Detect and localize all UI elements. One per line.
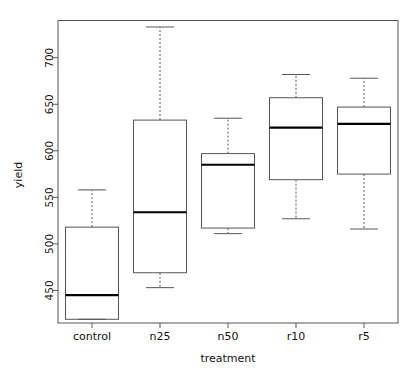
- y-axis-title: yield: [12, 162, 25, 188]
- y-tick-label: 450: [43, 280, 55, 300]
- boxplot-canvas: 450500550600650700 controln25n50r10r5 yi…: [0, 0, 418, 374]
- y-tick-label: 700: [43, 48, 55, 68]
- y-tick-label: 500: [43, 234, 55, 254]
- boxplot-figure: 450500550600650700 controln25n50r10r5 yi…: [0, 0, 418, 374]
- x-tick-label-r5: r5: [358, 330, 370, 343]
- y-tick-label: 550: [43, 187, 55, 207]
- y-tick-label: 600: [43, 141, 55, 161]
- x-tick-label-n25: n25: [150, 330, 171, 343]
- x-tick-label-control: control: [73, 330, 111, 343]
- figure-background: [0, 0, 418, 374]
- x-tick-label-r10: r10: [287, 330, 306, 343]
- y-tick-label: 650: [43, 94, 55, 114]
- x-axis-title: treatment: [200, 352, 256, 365]
- x-tick-label-n50: n50: [218, 330, 239, 343]
